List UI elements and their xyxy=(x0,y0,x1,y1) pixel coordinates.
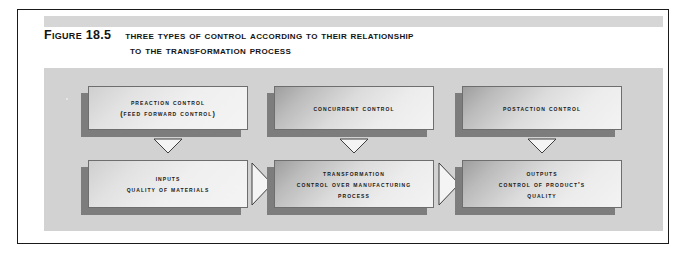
box-line: Inputs xyxy=(156,173,181,184)
box-face: Preaction Control (Feed Forward Control) xyxy=(88,86,248,130)
triangle-down-icon xyxy=(527,138,557,154)
arrow-postaction-to-outputs xyxy=(527,138,557,154)
box-face: Outputs Control of product's quality xyxy=(462,160,622,208)
diagram-panel: Preaction Control (Feed Forward Control)… xyxy=(44,68,663,231)
box-face: Postaction Control xyxy=(462,86,622,130)
box-line: Quality of Materials xyxy=(127,184,210,195)
arrow-concurrent-to-transformation xyxy=(339,138,369,154)
box-line: Control of product's xyxy=(499,179,585,190)
box-line: (Feed Forward Control) xyxy=(120,108,216,119)
figure-label: Figure 18.5 xyxy=(44,28,111,42)
box-line: Preaction Control xyxy=(131,97,205,108)
box-postaction-control: Postaction Control xyxy=(462,86,622,130)
figure-frame: Figure 18.5 Three Types of Control Accor… xyxy=(17,9,669,244)
box-line: Postaction Control xyxy=(503,103,581,114)
box-face: Concurrent Control xyxy=(274,86,434,130)
box-line: Outputs xyxy=(526,168,557,179)
box-concurrent-control: Concurrent Control xyxy=(274,86,434,130)
box-line: Control over manufacturing xyxy=(297,179,411,190)
title-band xyxy=(44,16,663,27)
triangle-down-icon xyxy=(153,138,183,154)
figure-heading: Figure 18.5 Three Types of Control Accor… xyxy=(44,28,654,64)
box-face: Inputs Quality of Materials xyxy=(88,160,248,208)
box-line: quality xyxy=(527,190,556,201)
figure-heading-row: Figure 18.5 Three Types of Control Accor… xyxy=(44,28,654,42)
figure-root: Figure 18.5 Three Types of Control Accor… xyxy=(0,0,687,254)
triangle-down-icon xyxy=(339,138,369,154)
box-line: process xyxy=(338,190,370,201)
box-face: Transformation Control over manufacturin… xyxy=(274,160,434,208)
box-preaction-control: Preaction Control (Feed Forward Control) xyxy=(88,86,248,130)
figure-title-line-2: to the Transformation Process xyxy=(130,44,654,56)
arrow-preaction-to-inputs xyxy=(153,138,183,154)
box-transformation: Transformation Control over manufacturin… xyxy=(274,160,434,208)
box-line: Transformation xyxy=(323,168,385,179)
box-line: Concurrent Control xyxy=(313,103,394,114)
figure-title-line-1: Three Types of Control According to Thei… xyxy=(125,29,414,41)
box-inputs: Inputs Quality of Materials xyxy=(88,160,248,208)
box-outputs: Outputs Control of product's quality xyxy=(462,160,622,208)
panel-speck xyxy=(66,98,68,100)
